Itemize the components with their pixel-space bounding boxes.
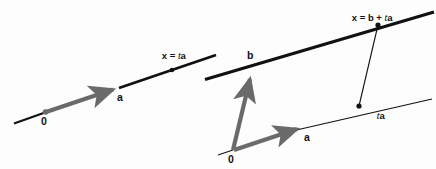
left-line-point xyxy=(170,68,175,73)
right-point-x xyxy=(375,22,380,27)
right-origin-label: 0 xyxy=(228,153,234,165)
right-connector-ta-to-x xyxy=(359,25,378,106)
right-line-equation-label: x = b + ta xyxy=(328,12,411,23)
right-scaled-vector-label: ta xyxy=(353,110,403,121)
left-line-equation-label: x = ta xyxy=(138,50,204,61)
left-eq-equals: = xyxy=(167,50,178,61)
left-vector-a xyxy=(46,90,113,113)
right-vector-a xyxy=(234,129,297,150)
vector-line-figure: 0 a x = ta xyxy=(0,0,436,169)
left-origin-point xyxy=(43,109,49,115)
right-vector-a-label: a xyxy=(304,131,310,143)
right-point-ta xyxy=(356,103,361,108)
left-panel-group: 0 a x = ta xyxy=(14,50,216,127)
figure-canvas: 0 a x = ta xyxy=(0,0,436,169)
left-eq-vector: a xyxy=(181,50,187,61)
right-vector-b xyxy=(233,79,250,150)
right-eq-equals: = xyxy=(357,12,368,23)
right-eq-vector: a xyxy=(387,12,393,23)
left-origin-label: 0 xyxy=(41,115,47,127)
right-eq-plus: + xyxy=(374,12,385,23)
right-panel-group: 0 a b ta x = b + ta xyxy=(205,12,434,165)
right-ta-vector: a xyxy=(379,110,385,121)
right-vector-b-label: b xyxy=(247,49,253,61)
left-vector-a-label: a xyxy=(117,91,123,103)
